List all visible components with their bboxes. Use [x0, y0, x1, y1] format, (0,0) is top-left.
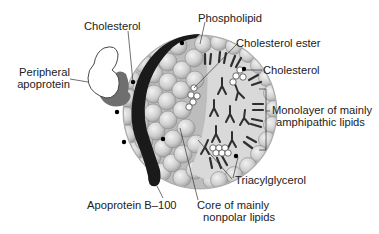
- label-peripheral-apoprotein-line1: Peripheral: [8, 66, 70, 79]
- triacylglycerol-circles: [210, 145, 231, 156]
- label-triacylglycerol: Triacylglycerol: [235, 174, 306, 187]
- label-monolayer-line1: Monolayer of mainly: [272, 104, 372, 117]
- label-phospholipid: Phospholipid: [198, 12, 262, 25]
- lipoprotein-particle: [115, 34, 283, 190]
- label-peripheral-apoprotein-line2: apoprotein: [8, 78, 70, 91]
- label-cholesterol-right: Cholesterol: [263, 64, 320, 77]
- peripheral-apoprotein: [88, 47, 131, 107]
- label-cholesterol-top: Cholesterol: [84, 20, 141, 33]
- label-monolayer-line2: amphipathic lipids: [276, 116, 365, 129]
- label-apoprotein-b100: Apoprotein B–100: [87, 199, 177, 212]
- label-core-line2: nonpolar lipids: [203, 211, 275, 224]
- label-core-line1: Core of mainly: [197, 199, 269, 212]
- label-cholesterol-ester: Cholesterol ester: [236, 37, 321, 50]
